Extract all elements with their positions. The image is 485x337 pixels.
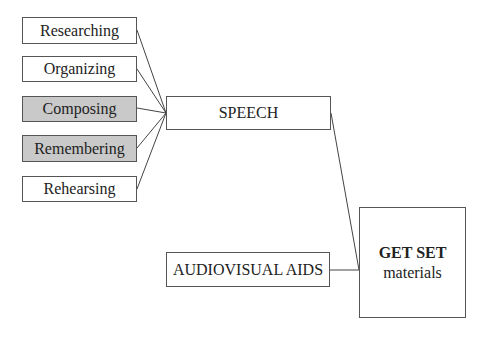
input-box-organizing: Organizing — [22, 56, 137, 82]
speech-box: SPEECH — [166, 96, 331, 130]
speech-label: SPEECH — [219, 104, 279, 122]
input-label: Remembering — [34, 140, 125, 158]
input-box-remembering: Remembering — [22, 135, 137, 162]
output-title: GET SET — [379, 243, 447, 263]
input-box-rehearsing: Rehearsing — [22, 176, 137, 202]
get-set-materials-box: GET SET materials — [359, 207, 466, 318]
input-box-researching: Researching — [22, 17, 137, 44]
input-label: Researching — [40, 22, 119, 40]
input-label: Rehearsing — [44, 180, 116, 198]
input-box-composing: Composing — [22, 96, 137, 122]
input-label: Composing — [43, 100, 117, 118]
audiovisual-aids-box: AUDIOVISUAL AIDS — [166, 252, 330, 287]
aids-label: AUDIOVISUAL AIDS — [173, 261, 323, 279]
output-subtitle: materials — [383, 263, 442, 283]
input-label: Organizing — [44, 60, 116, 78]
